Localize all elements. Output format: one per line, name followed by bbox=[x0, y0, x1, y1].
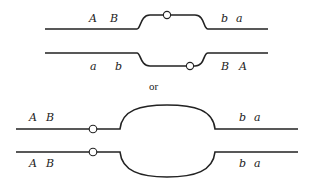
top-lower-chromatid bbox=[45, 53, 268, 66]
or-separator: or bbox=[149, 80, 159, 92]
bottom-upper-label-a: a bbox=[254, 111, 261, 124]
top-lower-label-a: a bbox=[90, 60, 97, 73]
top-upper-label-b: b bbox=[221, 12, 228, 25]
bottom-upper-centromere bbox=[89, 125, 97, 133]
bottom-chromosome-pair: A B b a A B b a bbox=[16, 105, 298, 177]
bottom-lower-label-b: b bbox=[239, 157, 246, 170]
bottom-lower-label-A: A bbox=[28, 157, 37, 170]
top-lower-label-A: A bbox=[238, 60, 247, 73]
top-upper-chromatid bbox=[45, 15, 268, 29]
top-upper-label-A: A bbox=[88, 12, 97, 25]
top-upper-label-a: a bbox=[236, 12, 243, 25]
top-lower-label-b: b bbox=[115, 60, 122, 73]
bottom-upper-label-b: b bbox=[239, 111, 246, 124]
top-lower-label-B: B bbox=[220, 60, 229, 73]
bottom-lower-label-B: B bbox=[45, 157, 54, 170]
top-lower-centromere bbox=[186, 62, 193, 69]
bottom-upper-label-A: A bbox=[28, 111, 37, 124]
top-chromosome-pair: A B b a a b B A bbox=[45, 11, 268, 73]
bottom-upper-label-B: B bbox=[45, 111, 54, 124]
top-upper-label-B: B bbox=[109, 12, 118, 25]
bottom-lower-centromere bbox=[89, 148, 97, 156]
top-upper-centromere bbox=[163, 11, 170, 18]
bottom-lower-label-a: a bbox=[254, 157, 261, 170]
inversion-loop-diagram: A B b a a b B A or A B b a A B b a bbox=[0, 0, 313, 182]
